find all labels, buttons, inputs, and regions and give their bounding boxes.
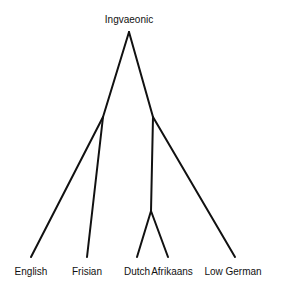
node-label-low-german: Low German [204,266,261,278]
edge-right-branch-to-low-german [153,117,235,257]
edge-root-to-left-branch [103,32,129,117]
node-label-english: English [15,266,48,278]
edge-to-afrikaans [151,211,168,257]
node-label-ingvaeonic: Ingvaeonic [105,14,153,26]
edge-root-to-right-branch [129,32,153,117]
node-label-dutch: Dutch [124,266,150,278]
edge-to-dutch [137,211,151,257]
tree-diagram [0,0,285,288]
edge-left-branch-to-frisian [87,117,103,257]
edge-right-branch-to-dutch-afrikaans [151,117,153,211]
node-label-frisian: Frisian [72,266,102,278]
node-label-afrikaans: Afrikaans [151,266,193,278]
edge-left-branch-to-english [31,117,103,257]
